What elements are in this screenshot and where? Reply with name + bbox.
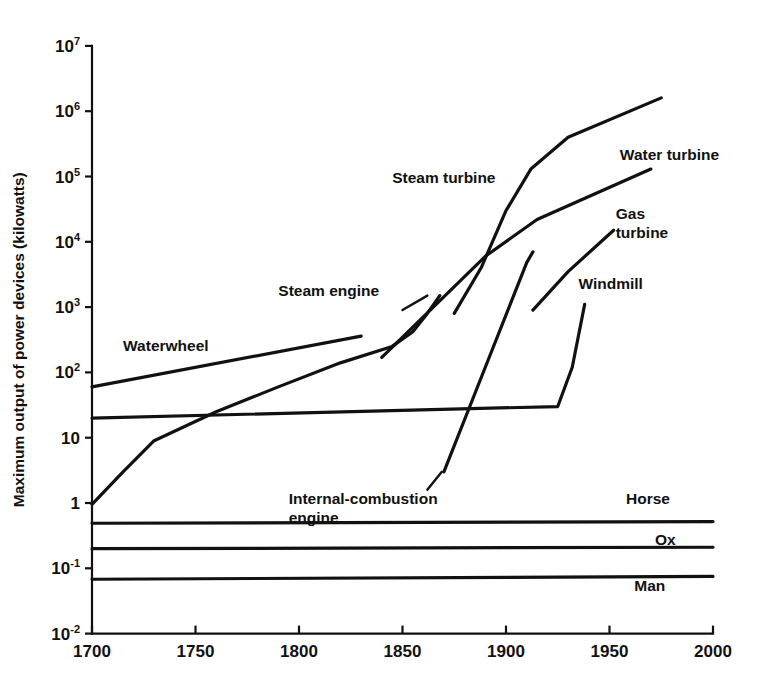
- y-axis-tick-labels: 10-210-1110102103104105106107: [51, 35, 81, 644]
- x-axis-tick-label: 1700: [73, 642, 111, 661]
- series-line-horse: [92, 522, 713, 524]
- y-axis-tick-label: 105: [55, 166, 80, 187]
- x-axis-tick-labels: 1700175018001850190019502000: [73, 642, 732, 661]
- series-label-steam-turbine: Steam turbine: [392, 169, 496, 186]
- series-line-ox: [92, 547, 713, 548]
- y-axis-tick-label: 10: [61, 429, 80, 448]
- y-axis-tick-label: 104: [55, 231, 81, 252]
- chart-canvas: Maximum output of power devices (kilowat…: [0, 0, 769, 677]
- x-axis-tick-label: 1750: [177, 642, 215, 661]
- series-line-gas-turbine: [533, 230, 614, 310]
- y-axis-tick-label: 10-2: [51, 623, 80, 644]
- series-label-waterwheel: Waterwheel: [123, 337, 209, 354]
- series-line-windmill: [92, 304, 585, 418]
- y-axis-title-text: Maximum output of power devices (kilowat…: [10, 172, 27, 507]
- x-axis-tick-label: 1800: [280, 642, 318, 661]
- series-label-man: Man: [634, 577, 665, 594]
- series-label-ox: Ox: [655, 531, 676, 548]
- y-axis-tick-label: 106: [55, 100, 80, 121]
- x-axis-tick-label: 1900: [487, 642, 525, 661]
- series-label-gas-turbine: Gasturbine: [616, 205, 669, 241]
- series-label-horse: Horse: [626, 490, 670, 507]
- leader-line-steam-engine: [403, 296, 428, 310]
- y-axis-tick-label: 10-1: [51, 557, 80, 578]
- y-axis-tick-label: 107: [55, 35, 80, 56]
- x-axis-tick-label: 2000: [694, 642, 732, 661]
- x-axis-tick-label: 1950: [591, 642, 629, 661]
- series-label-water-turbine: Water turbine: [620, 146, 720, 163]
- series-labels: WaterwheelSteam engineWindmillInternal-c…: [123, 146, 719, 594]
- y-axis-tick-label: 103: [55, 296, 80, 317]
- series-line-water-turbine: [382, 169, 651, 357]
- series-line-man: [92, 576, 713, 579]
- series-line-steam-engine: [92, 296, 440, 505]
- leader-line-internal-combustion-engine: [427, 472, 441, 490]
- power-devices-chart-figure: Maximum output of power devices (kilowat…: [0, 0, 769, 677]
- x-axis-tick-label: 1850: [384, 642, 422, 661]
- y-axis-tick-label: 1: [71, 494, 80, 513]
- series-label-steam-engine: Steam engine: [278, 282, 379, 299]
- y-axis-tick-label: 102: [55, 361, 80, 382]
- series-label-windmill: Windmill: [578, 275, 642, 292]
- y-axis-title: Maximum output of power devices (kilowat…: [10, 172, 27, 507]
